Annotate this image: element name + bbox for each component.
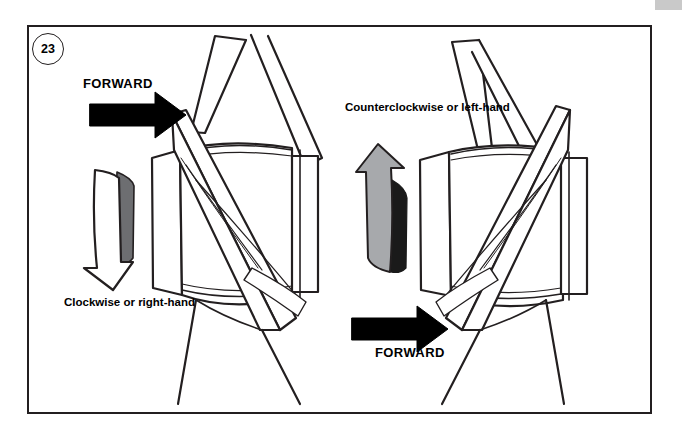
propeller-diagram-illustration	[0, 0, 682, 444]
diagram-page: 23 FORWARD FORWARD Clockwise or right-ha…	[0, 0, 682, 444]
figure-number-text: 23	[41, 42, 55, 56]
label-clockwise-right-hand: Clockwise or right-hand	[64, 296, 184, 310]
label-forward-top: FORWARD	[83, 76, 153, 91]
label-counterclockwise-left-hand: Counterclockwise or left-hand	[345, 101, 485, 115]
figure-number-badge: 23	[32, 33, 64, 65]
left-propeller-assembly	[152, 35, 322, 404]
forward-arrow-top	[90, 92, 186, 138]
left-rotation-arrow	[84, 170, 134, 290]
label-forward-bottom: FORWARD	[375, 345, 445, 360]
right-propeller-assembly	[420, 40, 587, 404]
right-rotation-arrow	[356, 144, 407, 273]
